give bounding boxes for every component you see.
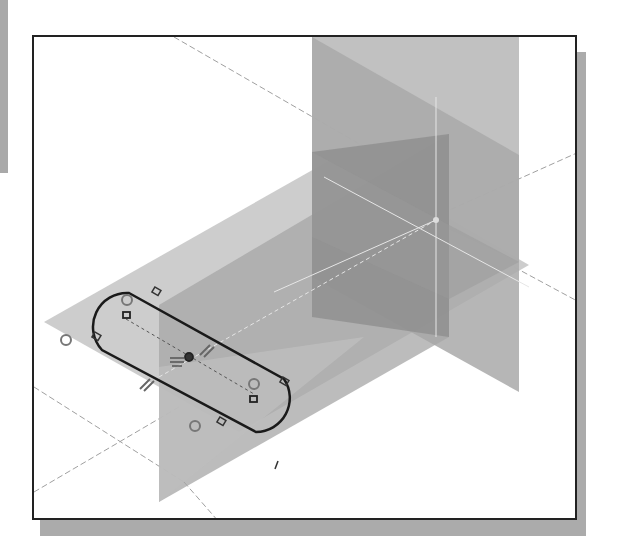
triad-mark [275, 461, 278, 469]
left-edge-bar [0, 0, 8, 173]
midpoint-icon [185, 353, 193, 361]
graphics-viewport[interactable] [32, 35, 577, 520]
origin-point [433, 217, 439, 223]
concentric-icon [61, 335, 71, 345]
scene-svg [34, 37, 577, 520]
